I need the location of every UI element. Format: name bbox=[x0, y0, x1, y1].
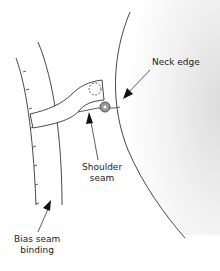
thread-line bbox=[78, 107, 120, 112]
bias-binding-arrow bbox=[38, 200, 51, 232]
bias-binding-label: Bias seam binding bbox=[14, 234, 60, 256]
neck-edge-label: Neck edge bbox=[152, 57, 200, 68]
bias-binding-label-line2: binding bbox=[14, 245, 60, 256]
shoulder-seam-label-line1: Shoulder bbox=[82, 162, 122, 173]
neck-region bbox=[115, 0, 220, 235]
bias-binding-outer-edge bbox=[16, 58, 36, 205]
shoulder-seam-label: Shoulder seam bbox=[82, 162, 122, 184]
knot-center bbox=[103, 105, 106, 108]
shoulder-seam-arrow bbox=[86, 112, 98, 160]
bias-binding-label-line1: Bias seam bbox=[14, 234, 60, 245]
shoulder-seam-label-line2: seam bbox=[82, 173, 122, 184]
shoulder-strap bbox=[30, 80, 104, 128]
diagram-canvas bbox=[0, 0, 220, 271]
stitch-marks bbox=[23, 71, 39, 204]
